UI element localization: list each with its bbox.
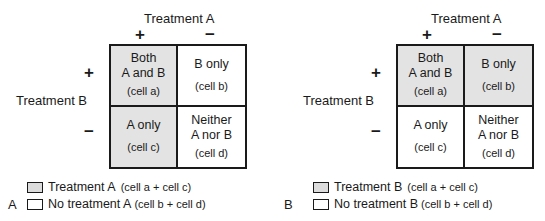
cell-id: (cell a) [414, 84, 447, 99]
cell-id: (cell d) [195, 146, 228, 161]
cell-label: B only [481, 57, 516, 72]
cell-id: (cell b) [195, 79, 228, 94]
legend-label: Treatment A [48, 180, 116, 194]
cell-label: A nor B [191, 128, 232, 143]
cell-id: (cell c) [127, 140, 159, 155]
unshaded-swatch-icon [27, 199, 43, 210]
cell-label: Neither [191, 113, 231, 128]
cell-d: Neither A nor B (cell d) [178, 107, 245, 168]
row-axis-title: Treatment B [16, 93, 87, 108]
cell-label: Both [131, 51, 157, 66]
contingency-grid: Both A and B (cell a) B only (cell b) A … [396, 44, 534, 169]
contingency-grid: Both A and B (cell a) B only (cell b) A … [109, 44, 247, 169]
cell-id: (cell a) [127, 84, 160, 99]
cell-label: A and B [409, 66, 453, 81]
cell-label: A and B [122, 66, 166, 81]
row-minus-sign: − [81, 123, 97, 140]
column-axis-title: Treatment A [144, 11, 214, 26]
cell-id: (cell d) [482, 146, 515, 161]
panel-letter: A [8, 197, 17, 212]
cell-b: B only (cell b) [178, 46, 245, 107]
column-axis-title: Treatment A [431, 11, 501, 26]
row-minus-sign: − [368, 123, 384, 140]
cell-label: Neither [478, 113, 518, 128]
cell-c: A only (cell c) [111, 107, 178, 168]
cell-id: (cell b) [482, 79, 515, 94]
legend-label: No treatment A [48, 197, 131, 211]
column-minus-sign: − [202, 26, 218, 43]
legend-item-unshaded: No treatment A (cell b + cell d) [27, 197, 206, 211]
cell-label: A only [126, 118, 160, 133]
row-plus-sign: + [368, 64, 384, 81]
legend-item-unshaded: No treatment B (cell b + cell d) [313, 197, 492, 211]
cell-a: Both A and B (cell a) [111, 46, 178, 107]
shaded-swatch-icon [27, 182, 43, 193]
row-plus-sign: + [81, 64, 97, 81]
row-axis-title: Treatment B [303, 93, 374, 108]
cell-label: A nor B [478, 128, 519, 143]
unshaded-swatch-icon [313, 199, 329, 210]
cell-label: Both [418, 51, 444, 66]
cell-label: A only [413, 118, 447, 133]
legend-label: Treatment B [334, 180, 402, 194]
legend-label: No treatment B [334, 197, 418, 211]
cell-b: B only (cell b) [465, 46, 532, 107]
column-minus-sign: − [489, 26, 505, 43]
shaded-swatch-icon [313, 182, 329, 193]
legend-note: (cell b + cell d) [421, 198, 492, 210]
legend-note: (cell a + cell c) [121, 181, 192, 193]
legend-item-shaded: Treatment B (cell a + cell c) [313, 180, 478, 194]
legend-item-shaded: Treatment A (cell a + cell c) [27, 180, 191, 194]
cell-label: B only [194, 57, 229, 72]
cell-d: Neither A nor B (cell d) [465, 107, 532, 168]
legend-note: (cell b + cell d) [134, 198, 205, 210]
legend-note: (cell a + cell c) [407, 181, 478, 193]
cell-id: (cell c) [414, 140, 446, 155]
column-plus-sign: + [419, 26, 435, 43]
column-plus-sign: + [132, 26, 148, 43]
cell-c: A only (cell c) [398, 107, 465, 168]
cell-a: Both A and B (cell a) [398, 46, 465, 107]
panel-letter: B [284, 197, 293, 212]
